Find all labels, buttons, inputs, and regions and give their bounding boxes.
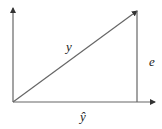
vector-y (13, 11, 137, 102)
label-yhat: ŷ (80, 110, 86, 123)
label-e: e (149, 55, 155, 68)
label-y: y (66, 40, 72, 53)
projection-diagram: y e ŷ (0, 0, 162, 129)
